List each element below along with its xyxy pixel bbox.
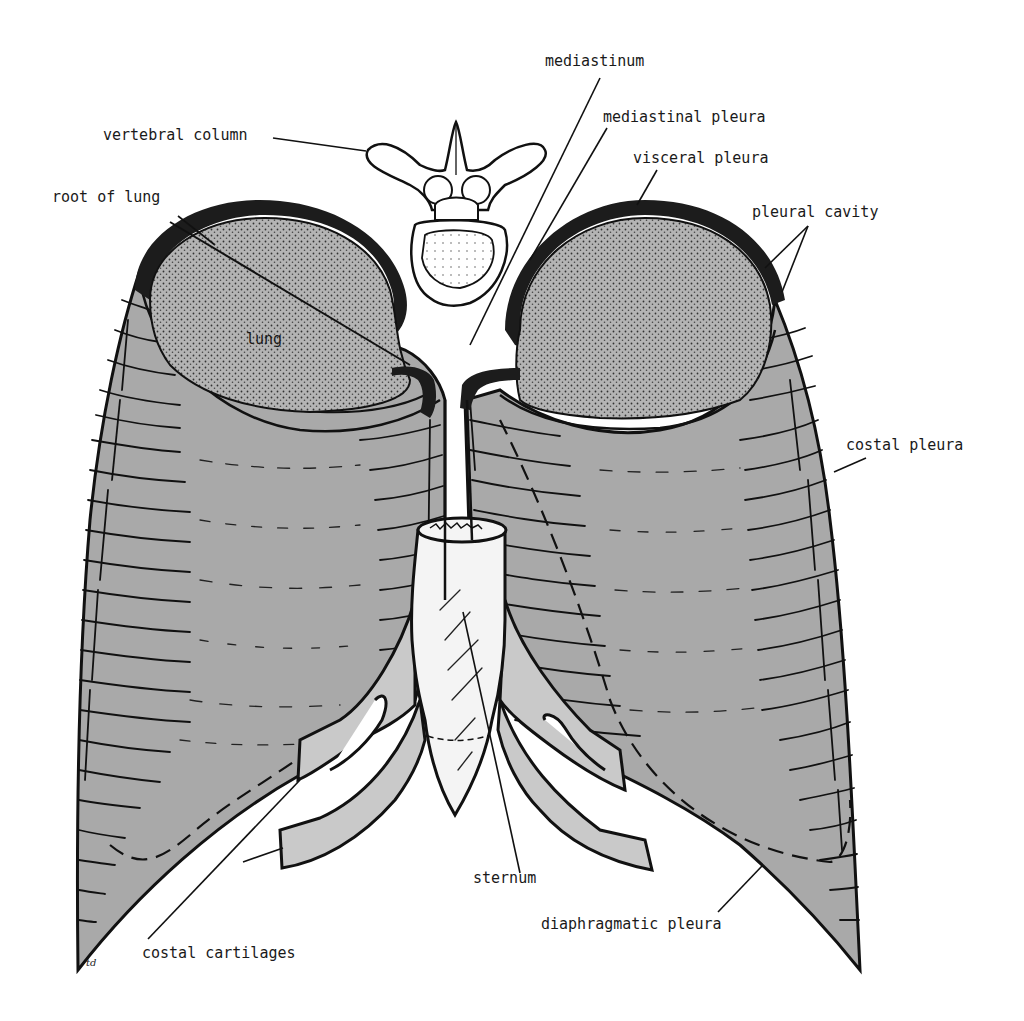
label-pleural-cavity: pleural cavity (752, 203, 878, 221)
leader-diaphragmatic-pleura (718, 866, 762, 912)
leader-pleural-cavity-1 (765, 226, 808, 268)
label-mediastinum: mediastinum (545, 52, 644, 70)
leader-pleural-cavity-2 (782, 226, 808, 292)
label-costal-cartilages: costal cartilages (142, 944, 296, 962)
label-lung: lung (246, 330, 282, 348)
label-diaphragmatic-pleura: diaphragmatic pleura (541, 915, 722, 933)
label-mediastinal-pleura: mediastinal pleura (603, 108, 766, 126)
label-sternum: sternum (473, 869, 536, 887)
leader-visceral-pleura (637, 170, 657, 205)
pleura-diagram: mediastinum mediastinal pleura vertebral… (0, 0, 1024, 1021)
label-root-of-lung: root of lung (52, 188, 160, 206)
label-visceral-pleura: visceral pleura (633, 149, 768, 167)
sternum (412, 518, 506, 815)
leader-costal-pleura (834, 458, 866, 472)
label-costal-pleura: costal pleura (846, 436, 963, 454)
leader-costal-cartilages-2 (243, 848, 283, 862)
right-lung (460, 200, 785, 418)
artist-signature: td (86, 957, 96, 968)
leader-vertebral-column (273, 138, 366, 151)
label-vertebral-column: vertebral column (103, 126, 248, 144)
